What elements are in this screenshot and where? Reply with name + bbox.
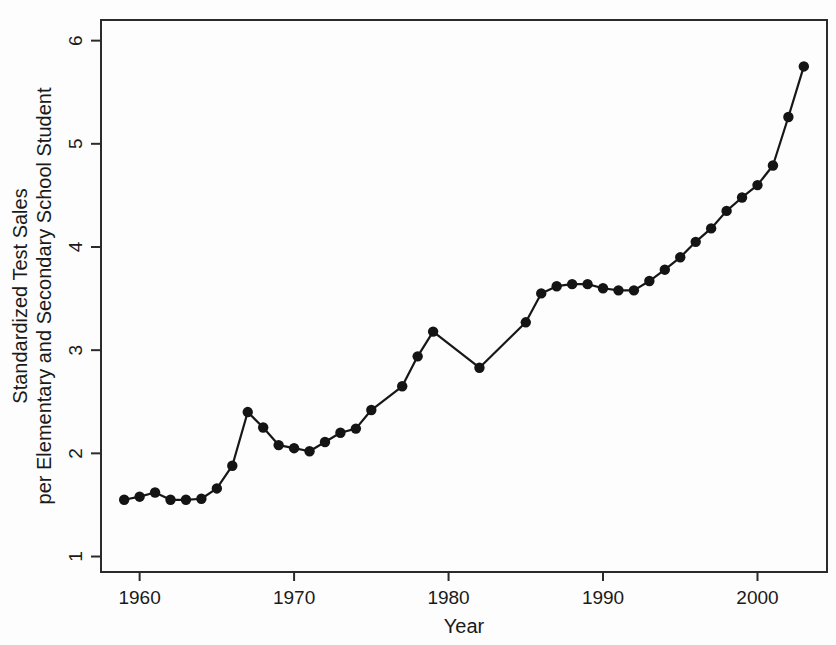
data-point xyxy=(783,112,793,122)
x-tick-label: 2000 xyxy=(736,587,778,608)
x-tick-label: 1970 xyxy=(273,587,315,608)
data-point xyxy=(536,288,546,298)
y-tick-label: 1 xyxy=(65,551,86,562)
y-axis-title-line-1: Standardized Test Sales xyxy=(9,188,31,403)
x-axis-title: Year xyxy=(444,615,485,637)
data-point xyxy=(737,192,747,202)
data-point xyxy=(428,326,438,336)
y-axis-ticks xyxy=(91,41,101,557)
data-point xyxy=(598,283,608,293)
data-point xyxy=(227,461,237,471)
data-point xyxy=(691,237,701,247)
data-point xyxy=(629,285,639,295)
data-point xyxy=(273,440,283,450)
x-tick-label: 1990 xyxy=(582,587,624,608)
y-axis-tick-labels: 123456 xyxy=(65,35,86,561)
y-tick-label: 4 xyxy=(65,241,86,252)
chart-figure: 19601970198019902000 123456 Year Standar… xyxy=(0,0,836,645)
data-point xyxy=(181,495,191,505)
plot-frame xyxy=(101,20,827,572)
y-axis-title-line-2: per Elementary and Secondary School Stud… xyxy=(33,87,55,504)
y-tick-label: 5 xyxy=(65,139,86,150)
data-point xyxy=(134,491,144,501)
x-tick-label: 1980 xyxy=(427,587,469,608)
data-point xyxy=(165,495,175,505)
data-point xyxy=(150,487,160,497)
data-point xyxy=(366,405,376,415)
data-point xyxy=(320,437,330,447)
data-point xyxy=(551,281,561,291)
data-point xyxy=(721,206,731,216)
data-point xyxy=(304,446,314,456)
data-point xyxy=(521,317,531,327)
data-point xyxy=(752,180,762,190)
data-point xyxy=(335,428,345,438)
data-point xyxy=(196,494,206,504)
data-point xyxy=(567,279,577,289)
data-point xyxy=(397,381,407,391)
data-point xyxy=(243,407,253,417)
series-line xyxy=(124,66,804,499)
x-tick-label: 1960 xyxy=(118,587,160,608)
data-point xyxy=(660,264,670,274)
data-point xyxy=(644,276,654,286)
x-axis-ticks xyxy=(140,572,758,581)
y-tick-label: 6 xyxy=(65,35,86,46)
data-point xyxy=(799,61,809,71)
y-tick-label: 2 xyxy=(65,448,86,459)
data-point xyxy=(768,160,778,170)
x-axis-tick-labels: 19601970198019902000 xyxy=(118,587,778,608)
data-point xyxy=(412,351,422,361)
data-point xyxy=(351,423,361,433)
data-series xyxy=(119,61,809,505)
data-point xyxy=(613,285,623,295)
data-point xyxy=(258,422,268,432)
data-point xyxy=(289,443,299,453)
data-point xyxy=(474,363,484,373)
data-point xyxy=(212,483,222,493)
data-point xyxy=(706,223,716,233)
data-point xyxy=(582,279,592,289)
data-point xyxy=(675,252,685,262)
line-chart: 19601970198019902000 123456 Year Standar… xyxy=(0,0,836,645)
y-tick-label: 3 xyxy=(65,345,86,356)
data-point xyxy=(119,495,129,505)
